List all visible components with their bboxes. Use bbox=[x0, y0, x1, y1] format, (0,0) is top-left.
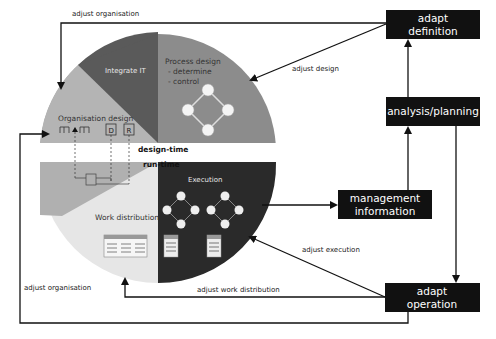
adapt-definition-box[interactable]: adapt definition bbox=[386, 10, 480, 39]
worklist-icon-2 bbox=[207, 235, 221, 257]
process-design-control: - control bbox=[168, 77, 199, 86]
run-time-label: run-time bbox=[143, 160, 180, 169]
execution-label: Execution bbox=[188, 176, 222, 184]
process-design-determine: - determine bbox=[168, 67, 212, 76]
adjust-work-distribution-label: adjust work distribution bbox=[197, 286, 280, 294]
adjust-organisation-bottom-label: adjust organisation bbox=[24, 284, 91, 292]
adapt-operation-box[interactable]: adapt operation bbox=[385, 283, 480, 312]
management-information-line1: management bbox=[350, 192, 420, 204]
organisation-design-label: Organisation design bbox=[58, 114, 133, 123]
adapt-definition-line2: definition bbox=[408, 25, 457, 37]
d-icon-label: D bbox=[109, 127, 114, 135]
adapt-operation-line1: adapt bbox=[417, 285, 447, 297]
work-distribution-table-icon bbox=[104, 235, 147, 257]
management-information-line2: information bbox=[355, 205, 416, 217]
process-lifecycle-diagram: Integrate IT Process design - determine … bbox=[0, 0, 496, 339]
design-time-label: design-time bbox=[138, 145, 188, 154]
process-design-title: Process design bbox=[165, 57, 221, 66]
r-icon-label: R bbox=[127, 127, 132, 135]
worklist-icon-1 bbox=[164, 235, 178, 257]
adapt-operation-line2: operation bbox=[407, 298, 457, 310]
adjust-design-label: adjust design bbox=[292, 65, 339, 73]
work-distribution-label: Work distribution bbox=[95, 213, 159, 222]
integrate-it-label: Integrate IT bbox=[105, 67, 147, 75]
adjust-organisation-top-label: adjust organisation bbox=[72, 10, 139, 18]
analysis-planning-label: analysis/planning bbox=[387, 105, 479, 117]
management-information-box[interactable]: management information bbox=[338, 190, 432, 219]
analysis-planning-box[interactable]: analysis/planning bbox=[386, 97, 480, 126]
adjust-execution-label: adjust execution bbox=[302, 246, 360, 254]
adapt-definition-line1: adapt bbox=[418, 12, 448, 24]
